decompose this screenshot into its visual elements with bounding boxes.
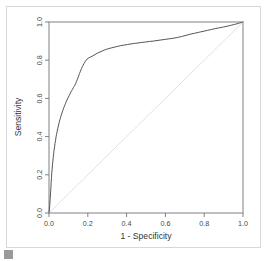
- x-axis-tick-label: 0.0: [44, 219, 54, 228]
- x-axis-title: 1 - Specificity: [120, 231, 172, 241]
- y-axis-tick-label: 0.6: [35, 93, 44, 103]
- x-axis-tick-label: 0.8: [199, 219, 209, 228]
- roc-chart-screenshot: 0.00.20.40.60.81.0 0.00.20.40.60.81.0 1 …: [0, 0, 267, 261]
- y-axis: 0.00.20.40.60.81.0: [35, 17, 49, 218]
- x-axis: 0.00.20.40.60.81.0: [44, 213, 248, 228]
- y-axis-title: Sensitivity: [13, 97, 23, 136]
- figure-frame: 0.00.20.40.60.81.0 0.00.20.40.60.81.0 1 …: [6, 6, 261, 248]
- y-axis-tick-label: 1.0: [35, 17, 44, 27]
- y-axis-tick-label: 0.2: [35, 170, 44, 180]
- y-axis-tick-label: 0.0: [35, 208, 44, 218]
- y-axis-tick-label: 0.4: [35, 132, 44, 142]
- x-axis-tick-label: 0.4: [122, 219, 132, 228]
- roc-plot: 0.00.20.40.60.81.0 0.00.20.40.60.81.0 1 …: [7, 7, 260, 247]
- x-axis-tick-label: 0.2: [83, 219, 93, 228]
- y-axis-tick-label: 0.8: [35, 55, 44, 65]
- x-axis-tick-label: 0.6: [160, 219, 170, 228]
- resize-handle[interactable]: [4, 250, 13, 259]
- x-axis-tick-label: 1.0: [238, 219, 248, 228]
- chance-diagonal-line: [49, 22, 243, 213]
